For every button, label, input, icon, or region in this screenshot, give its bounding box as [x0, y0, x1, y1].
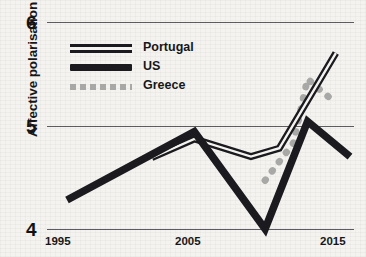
line-chart: 6 5 4 Affective polarisation 1995 2005 2…: [0, 0, 366, 257]
series-us: [67, 121, 350, 229]
plot-area: [0, 0, 366, 257]
